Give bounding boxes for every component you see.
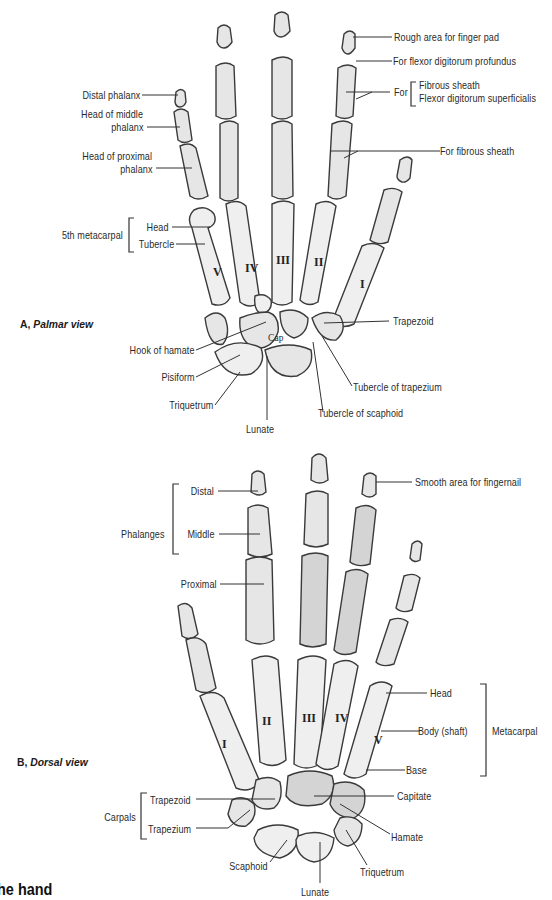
svg-text:V: V [374,733,383,747]
label-smooth-area-fingernail: Smooth area for fingernail [415,476,521,488]
svg-text:IV: IV [335,711,349,725]
label-middle: Middle [188,528,215,540]
label-proximal: Proximal [181,578,217,590]
label-fibrous-sheath: Fibrous sheath [419,79,480,91]
dorsal-caption-letter: B, [17,756,27,768]
dorsal-view-caption: B, Dorsal view [17,756,88,768]
palmar-caption-letter: A, [20,318,30,330]
dorsal-caption-view: Dorsal view [30,756,88,768]
label-head-of-middle: Head of middle [81,108,143,120]
label-dorsal-head: Head [430,687,452,699]
label-flexor-digitorum-superficialis: Flexor digitorum superficialis [419,92,536,104]
svg-text:IV: IV [245,261,259,275]
label-body-shaft: Body (shaft) [418,725,468,737]
label-tubercle-of-scaphoid: Tubercle of scaphoid [318,407,403,419]
label-metacarpal: Metacarpal [492,725,538,737]
label-carpals: Carpals [104,811,136,823]
svg-text:II: II [314,255,324,269]
label-palmar-triquetrum: Triquetrum [169,399,213,411]
label-palmar-head: Head [147,221,169,233]
label-tubercle-of-trapezium: Tubercle of trapezium [353,381,442,393]
svg-text:II: II [262,714,272,728]
label-phalanges: Phalanges [122,528,165,540]
label-dorsal-lunate: Lunate [301,886,329,898]
label-head-of-middle-phalanx: phalanx [111,121,143,133]
label-head-of-proximal: Head of proximal [82,150,152,162]
palmar-caption-view: Palmar view [33,318,93,330]
label-hamate: Hamate [391,831,423,843]
svg-text:III: III [276,253,290,267]
svg-text:III: III [302,711,316,725]
label-head-of-proximal-phalanx: phalanx [120,163,152,175]
label-for: For [394,86,408,98]
label-palmar-trapezoid: Trapezoid [393,315,434,327]
label-rough-area-finger-pad: Rough area for finger pad [394,31,499,43]
svg-text:V: V [213,265,222,279]
label-for-fibrous-sheath: For fibrous sheath [440,145,514,157]
dorsal-hand-bones [178,454,422,862]
label-palmar-tubercle: Tubercle [139,238,174,250]
label-dorsal-trapezoid: Trapezoid [150,794,191,806]
label-capitate: Capitate [397,790,431,802]
label-distal-phalanx: Distal phalanx [82,89,140,101]
label-5th-metacarpal: 5th metacarpal [62,229,123,241]
label-pisiform: Pisiform [162,371,195,383]
label-cap: Cap [268,331,284,343]
label-scaphoid: Scaphoid [230,860,268,872]
label-flexor-digitorum-profundus: For flexor digitorum profundus [393,55,516,67]
palmar-view-caption: A, Palmar view [20,318,93,330]
label-hook-of-hamate: Hook of hamate [130,344,195,356]
figure-title: he hand [0,880,52,900]
label-trapezium: Trapezium [148,823,191,835]
label-base: Base [406,764,427,776]
svg-text:I: I [222,737,227,751]
svg-text:I: I [360,277,365,291]
label-dorsal-triquetrum: Triquetrum [360,866,404,878]
label-distal: Distal [191,485,214,497]
label-palmar-lunate: Lunate [246,423,274,435]
